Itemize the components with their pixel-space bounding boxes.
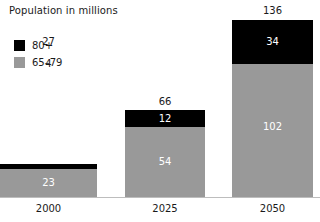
bar-stack-2000: 23 — [0, 164, 97, 197]
bar-group-2000: 27 4 23 — [0, 0, 97, 197]
bar-total-2025: 66 — [125, 97, 205, 107]
bar-stack-2050: 34 102 — [232, 20, 313, 197]
bar-group-2050: 136 34 102 — [232, 0, 313, 197]
bar-segment-value-2050-65-79: 102 — [232, 122, 313, 132]
x-tick-label-2025: 2025 — [125, 203, 205, 214]
bar-segment-2025-65-79[interactable]: 54 — [125, 127, 205, 197]
bar-segment-2000-65-79[interactable]: 23 — [0, 169, 97, 197]
bar-segment-value-2025-80plus: 12 — [125, 114, 205, 124]
bar-segment-value-2000-80plus: 4 — [0, 59, 97, 69]
bar-segment-2025-80plus[interactable]: 12 — [125, 110, 205, 127]
bar-segment-value-2050-80plus: 34 — [232, 37, 313, 47]
bar-group-2025: 66 12 54 — [125, 0, 205, 197]
bar-segment-2050-65-79[interactable]: 102 — [232, 64, 313, 197]
x-axis-line — [0, 197, 320, 198]
bar-total-2050: 136 — [232, 6, 313, 16]
bar-segment-value-2025-65-79: 54 — [125, 157, 205, 167]
bar-segment-2050-80plus[interactable]: 34 — [232, 20, 313, 64]
stacked-bar-chart: Population in millions 80+ 65–79 27 4 23… — [0, 0, 320, 222]
bar-stack-2025: 12 54 — [125, 110, 205, 197]
plot-area: 27 4 23 66 12 54 136 — [0, 0, 320, 197]
x-axis-labels: 2000 2025 2050 — [0, 203, 320, 219]
x-tick-label-2000: 2000 — [0, 203, 97, 214]
bar-total-2000: 27 — [0, 37, 97, 47]
x-tick-label-2050: 2050 — [232, 203, 313, 214]
bar-segment-value-2000-65-79: 23 — [0, 178, 97, 188]
